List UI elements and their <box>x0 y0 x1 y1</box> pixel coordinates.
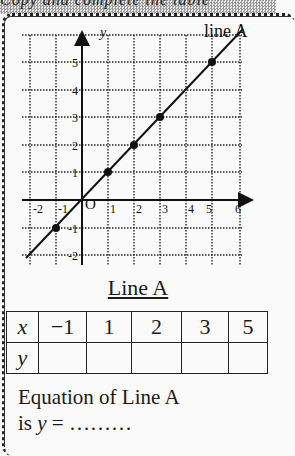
values-table: x −1 1 2 3 5 y <box>6 311 268 374</box>
y-axis-label: y <box>98 25 107 40</box>
svg-text:-2: -2 <box>68 249 78 263</box>
svg-text:5: 5 <box>72 56 78 70</box>
svg-text:3: 3 <box>162 202 168 216</box>
x-cell: −1 <box>39 312 87 343</box>
line-a-label: line A <box>204 21 248 41</box>
svg-text:-2: -2 <box>33 202 43 216</box>
svg-text:5: 5 <box>206 202 212 216</box>
origin-label: O <box>85 196 96 212</box>
row-label-y: y <box>7 343 39 374</box>
row-label-x: x <box>7 312 39 343</box>
equation-line-1: Equation of Line A <box>18 384 180 410</box>
svg-text:1: 1 <box>72 166 78 180</box>
svg-text:-1: -1 <box>68 222 78 236</box>
x-cell: 3 <box>182 312 229 343</box>
x-cell: 5 <box>229 312 268 343</box>
table-row-x: x −1 1 2 3 5 <box>7 312 268 343</box>
tick-labels: -2 -1 1 2 3 4 5 6 5 4 3 2 1 -1 -2 <box>33 56 241 263</box>
table-row-y: y <box>7 343 268 374</box>
svg-text:4: 4 <box>188 202 194 216</box>
x-cell: 1 <box>87 312 132 343</box>
svg-text:1: 1 <box>110 202 116 216</box>
equation-answer-blank[interactable]: = ……… <box>47 411 132 435</box>
x-cell: 2 <box>132 312 182 343</box>
svg-text:4: 4 <box>72 84 78 98</box>
y-cell[interactable] <box>182 343 229 374</box>
svg-text:2: 2 <box>136 202 142 216</box>
equation-line-2: is y = ……… <box>18 410 180 436</box>
y-cell[interactable] <box>87 343 132 374</box>
table-title: Line A <box>0 275 276 301</box>
y-cell[interactable] <box>39 343 87 374</box>
svg-text:-1: -1 <box>58 202 68 216</box>
svg-text:3: 3 <box>72 111 78 125</box>
equation-prompt: Equation of Line A is y = ……… <box>18 384 180 436</box>
y-cell[interactable] <box>229 343 268 374</box>
svg-text:6: 6 <box>235 202 241 216</box>
coordinate-graph: -2 -1 1 2 3 4 5 6 5 4 3 2 1 -1 -2 O y li… <box>0 0 276 275</box>
svg-text:2: 2 <box>72 139 78 153</box>
y-cell[interactable] <box>132 343 182 374</box>
